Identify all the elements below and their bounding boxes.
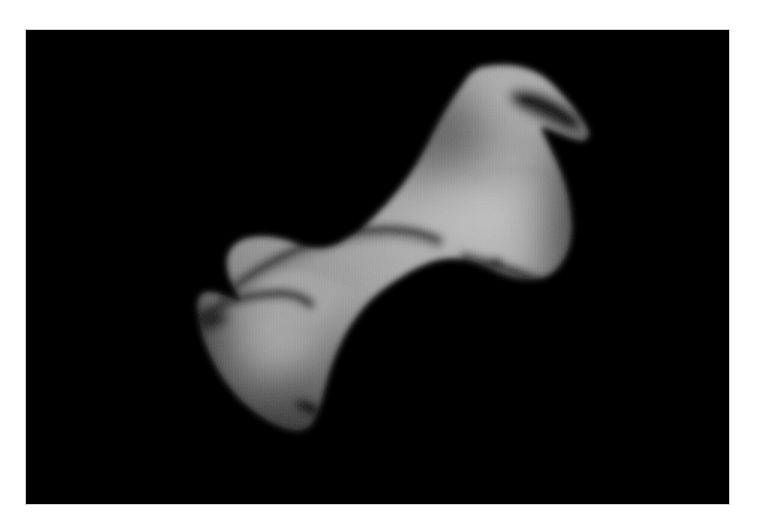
figure-canvas	[0, 0, 758, 528]
asteroid-render-svg	[26, 30, 729, 504]
surface-grain	[26, 30, 729, 504]
asteroid-image-panel	[26, 30, 729, 504]
